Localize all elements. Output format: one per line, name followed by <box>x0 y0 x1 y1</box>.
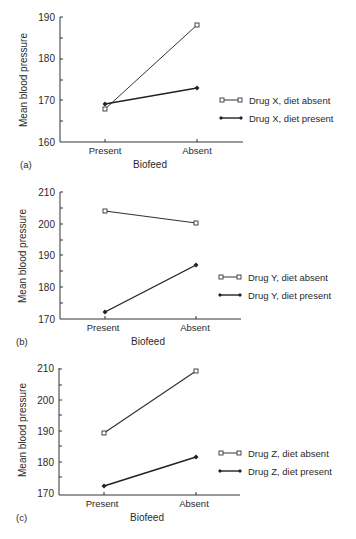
panel-label: (c) <box>16 512 27 523</box>
y-tick-label: 180 <box>38 282 55 293</box>
y-tick-label: 200 <box>38 219 55 230</box>
open-square-marker <box>103 107 107 111</box>
y-tick-label: 200 <box>37 395 54 406</box>
filled-diamond-marker <box>103 102 108 107</box>
y-axis-label: Mean blood pressure <box>17 209 28 303</box>
y-axis-label: Mean blood pressure <box>18 33 29 127</box>
open-square-marker <box>103 209 107 213</box>
open-square-marker <box>194 221 198 225</box>
y-tick-label: 190 <box>37 426 54 437</box>
y-tick-label: 180 <box>37 457 54 468</box>
y-tick-label: 170 <box>38 314 55 325</box>
open-square-marker <box>194 369 198 373</box>
open-square-marker <box>195 23 199 27</box>
y-tick-label: 190 <box>38 250 55 261</box>
legend-entry-diet-present: Drug Z, diet present <box>248 466 332 477</box>
series-line-diet-absent <box>104 371 196 433</box>
legend-entry-diet-present: Drug Y, diet present <box>248 290 331 301</box>
filled-diamond-marker <box>103 310 108 315</box>
legend: Drug Y, diet absent Drug Y, diet present <box>218 272 331 301</box>
y-tick-label: 170 <box>37 488 54 499</box>
legend-entry-diet-present: Drug X, diet present <box>249 113 334 124</box>
x-axis-label: Biofeed <box>130 512 164 523</box>
y-tick-label: 160 <box>38 137 55 148</box>
chart-panel-c: Mean blood pressure 210 200 190 180 170 … <box>16 363 332 523</box>
filled-diamond-marker <box>195 86 200 91</box>
y-tick-label: 210 <box>37 363 54 374</box>
filled-diamond-marker <box>194 455 199 460</box>
legend-entry-diet-absent: Drug Z, diet absent <box>248 448 329 459</box>
y-tick-label: 170 <box>38 95 55 106</box>
y-tick-label: 180 <box>38 53 55 64</box>
chart-panel-a: Mean blood pressure 190 180 170 160 Pres… <box>18 12 334 170</box>
y-tick-label: 210 <box>38 187 55 198</box>
panel-label: (b) <box>16 336 28 347</box>
series-line-diet-present <box>105 265 196 312</box>
x-category-label: Absent <box>179 498 209 509</box>
y-axis-label: Mean blood pressure <box>17 383 28 477</box>
legend: Drug Z, diet absent Drug Z, diet present <box>218 448 332 477</box>
x-axis-label: Biofeed <box>133 159 167 170</box>
series-line-diet-present <box>104 457 196 486</box>
x-category-label: Present <box>86 498 119 509</box>
open-square-marker <box>102 431 106 435</box>
x-category-label: Present <box>89 145 122 156</box>
series-line-diet-absent <box>105 211 196 223</box>
chart-panel-b: Mean blood pressure 210 200 190 180 170 … <box>16 187 331 347</box>
filled-diamond-marker <box>102 484 107 489</box>
legend: Drug X, diet absent Drug X, diet present <box>219 95 334 124</box>
panel-label: (a) <box>20 159 32 170</box>
legend-entry-diet-absent: Drug X, diet absent <box>249 95 331 106</box>
legend-entry-diet-absent: Drug Y, diet absent <box>248 272 328 283</box>
y-tick-label: 190 <box>38 12 55 23</box>
x-category-label: Absent <box>182 145 212 156</box>
x-axis-label: Biofeed <box>131 336 165 347</box>
x-category-label: Absent <box>180 322 210 333</box>
filled-diamond-marker <box>194 263 199 268</box>
x-category-label: Present <box>87 322 120 333</box>
